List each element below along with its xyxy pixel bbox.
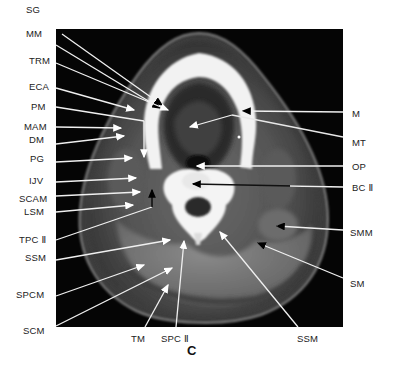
label-spcm: SPCM bbox=[16, 289, 44, 300]
label-mam: MAM bbox=[24, 121, 47, 132]
label-spc2: SPC Ⅱ bbox=[161, 333, 189, 344]
ct-scan-image bbox=[56, 29, 343, 327]
label-eca: ECA bbox=[29, 81, 49, 92]
label-tm: TM bbox=[131, 333, 145, 344]
label-dm: DM bbox=[29, 134, 44, 145]
label-ijv: IJV bbox=[29, 175, 43, 186]
label-pm: PM bbox=[31, 101, 46, 112]
label-trm: TRM bbox=[29, 55, 50, 66]
label-mm: MM bbox=[26, 28, 42, 39]
label-bc2: BC Ⅱ bbox=[352, 182, 373, 193]
label-sm: SM bbox=[350, 278, 365, 289]
label-ssm-left: SSM bbox=[25, 252, 46, 263]
label-lsm: LSM bbox=[24, 206, 44, 217]
label-smm: SMM bbox=[350, 227, 373, 238]
label-op: OP bbox=[352, 161, 366, 172]
label-pg: PG bbox=[30, 153, 44, 164]
label-scam: SCAM bbox=[19, 193, 47, 204]
label-tpc2: TPC Ⅱ bbox=[19, 234, 46, 245]
label-scm: SCM bbox=[23, 325, 45, 336]
label-ssm-bottom: SSM bbox=[297, 333, 318, 344]
label-mt: MT bbox=[352, 137, 366, 148]
label-m: M bbox=[352, 108, 360, 119]
label-sg: SG bbox=[26, 4, 40, 15]
panel-letter: C bbox=[187, 343, 196, 358]
ct-scan-svg bbox=[56, 29, 343, 327]
